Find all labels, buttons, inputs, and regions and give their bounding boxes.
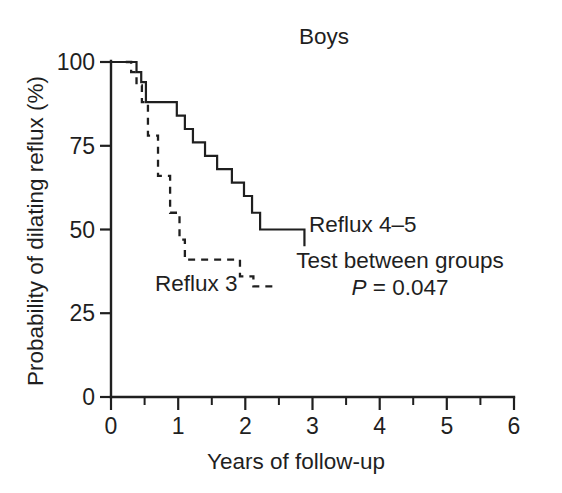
y-axis-tick-labels: 100 75 50 25 0 [57, 49, 95, 410]
y-tick-label-75: 75 [69, 133, 95, 159]
chart-title: Boys [299, 24, 349, 49]
x-tick-label-6: 6 [508, 413, 521, 439]
statistical-test-label: Test between groups [296, 248, 504, 273]
series-line-reflux-3 [126, 62, 276, 286]
y-axis-title: Probability of dilating reflux (%) [23, 76, 48, 386]
series-label-reflux-3: Reflux 3 [155, 271, 238, 296]
x-tick-label-2: 2 [239, 413, 252, 439]
p-value-rest: = 0.047 [367, 275, 449, 300]
x-tick-label-1: 1 [172, 413, 185, 439]
y-tick-label-50: 50 [69, 217, 95, 243]
p-value-annotation: P = 0.047 [352, 275, 449, 300]
x-tick-label-4: 4 [373, 413, 386, 439]
kaplan-meier-survival-chart: Boys 100 75 50 25 0 [0, 0, 562, 493]
p-symbol: P [352, 275, 367, 300]
series-line-reflux-4-5 [111, 62, 304, 246]
x-axis-tick-labels: 0 1 2 3 4 5 6 [105, 413, 521, 439]
series-label-reflux-4-5: Reflux 4–5 [309, 212, 417, 237]
chart-container: Boys 100 75 50 25 0 [0, 0, 562, 493]
y-tick-label-100: 100 [57, 49, 95, 75]
x-axis-major-ticks [111, 397, 514, 410]
y-axis-ticks [100, 62, 111, 397]
x-tick-label-0: 0 [105, 413, 118, 439]
x-axis-title: Years of follow-up [207, 449, 385, 474]
y-tick-label-25: 25 [69, 300, 95, 326]
y-tick-label-0: 0 [82, 384, 95, 410]
x-tick-label-5: 5 [440, 413, 453, 439]
x-tick-label-3: 3 [306, 413, 319, 439]
